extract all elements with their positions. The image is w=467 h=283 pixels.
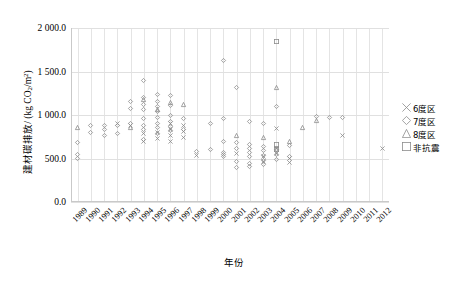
plot-area xyxy=(71,28,389,202)
diamond-marker-icon xyxy=(402,116,411,125)
triangle-marker-icon xyxy=(402,129,411,138)
cross-marker-icon xyxy=(402,103,411,112)
gridline-horizontal xyxy=(71,159,389,160)
gridline-horizontal xyxy=(71,28,389,29)
legend-item[interactable]: 非抗震 xyxy=(402,140,460,153)
x-axis-line xyxy=(71,201,389,202)
legend-item-label: 6度区 xyxy=(413,102,436,114)
y-tick-label: 1 000.0 xyxy=(20,110,66,120)
legend-item-label: 非抗震 xyxy=(413,141,440,153)
scatter-chart: 建材碳排放/ (kg CO2/m2) 0.0500.01 000.01 500.… xyxy=(0,0,467,283)
gridline-horizontal xyxy=(71,72,389,73)
y-tick-label: 1 500.0 xyxy=(20,67,66,77)
legend-item-label: 8度区 xyxy=(413,128,436,140)
y-tick-label: 2 000.0 xyxy=(20,23,66,33)
y-tick-label: 500.0 xyxy=(20,154,66,164)
y-axis-line xyxy=(71,28,72,202)
x-axis-ticks: 1989199019911992199319941995199619971998… xyxy=(71,203,389,243)
legend: 6度区7度区8度区非抗震 xyxy=(401,99,461,155)
y-tick-label: 0.0 xyxy=(20,197,66,207)
legend-item[interactable]: 6度区 xyxy=(402,101,460,114)
square-marker-icon xyxy=(402,142,411,151)
legend-item-label: 7度区 xyxy=(413,115,436,127)
legend-item[interactable]: 8度区 xyxy=(402,127,460,140)
x-axis-title: 年份 xyxy=(0,255,467,269)
gridline-horizontal xyxy=(71,115,389,116)
legend-item[interactable]: 7度区 xyxy=(402,114,460,127)
